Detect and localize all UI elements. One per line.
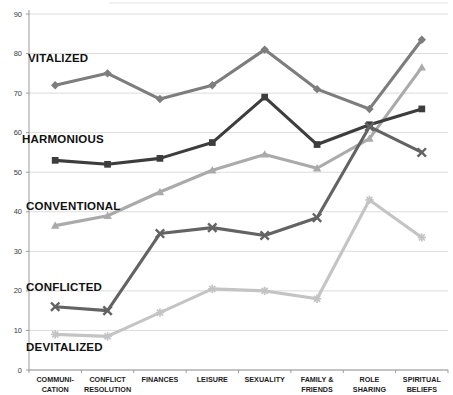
x-tick-label-line: FINANCES [134,375,186,385]
x-tick-label-line: CONFLICT [81,375,133,385]
series-line [55,200,422,336]
x-tick-label-line: SPIRITUAL [396,375,448,385]
series-vitalized [51,36,426,114]
data-point-square [104,161,111,168]
series-label-harmonious: HARMONIOUS [22,133,104,145]
x-tick-label-line: COMMUNI- [29,375,81,385]
y-tick-label: 10 [4,326,22,335]
x-tick-label-line: BELIEFS [396,385,448,395]
x-tick-label-line: CATION [29,385,81,395]
x-tick-label: SEXUALITY [239,375,291,385]
y-tick-label: 70 [4,89,22,98]
series-label-conflicted: CONFLICTED [26,281,102,293]
y-tick-label: 90 [4,10,22,19]
data-point-square [52,157,59,164]
series-harmonious [52,94,425,168]
data-point-square [261,94,268,101]
y-tick-label: 0 [4,366,22,375]
data-point-asterisk [418,233,426,241]
data-point-asterisk [156,308,164,316]
data-point-asterisk [313,295,321,303]
data-point-square [314,141,321,148]
series-label-conventional: CONVENTIONAL [26,200,120,212]
x-tick-label-line: FRIENDS [291,385,343,395]
y-tick-label: 60 [4,128,22,137]
x-tick-label: SPIRITUALBELIEFS [396,375,448,394]
x-tick-label: COMMUNI-CATION [29,375,81,394]
data-point-diamond [51,81,59,89]
data-point-asterisk [51,330,59,338]
data-point-square [209,139,216,146]
x-tick-label-line: RESOLUTION [81,385,133,395]
y-tick-label: 80 [4,49,22,58]
data-point-triangle [418,63,426,70]
x-tick-label-line: SEXUALITY [239,375,291,385]
data-point-square [418,106,425,113]
y-tick-label: 20 [4,286,22,295]
data-point-asterisk [365,196,373,204]
x-tick-label: FAMILY &FRIENDS [291,375,343,394]
data-point-asterisk [208,285,216,293]
data-point-asterisk [260,287,268,295]
y-tick-label: 40 [4,207,22,216]
series-label-vitalized: VITALIZED [28,52,88,64]
x-tick-label-line: FAMILY & [291,375,343,385]
x-tick-label: LEISURE [186,375,238,385]
data-point-asterisk [103,332,111,340]
x-tick-label-line: SHARING [343,385,395,395]
x-tick-label-line: ROLE [343,375,395,385]
data-point-square [157,155,164,162]
series-label-devitalized: DEVITALIZED [26,341,103,353]
x-tick-label: FINANCES [134,375,186,385]
y-tick-label: 30 [4,247,22,256]
x-tick-label: ROLESHARING [343,375,395,394]
x-tick-label-line: LEISURE [186,375,238,385]
line-chart: 0102030405060708090 COMMUNI-CATIONCONFLI… [0,0,453,395]
y-tick-label: 50 [4,168,22,177]
x-tick-label: CONFLICTRESOLUTION [81,375,133,394]
